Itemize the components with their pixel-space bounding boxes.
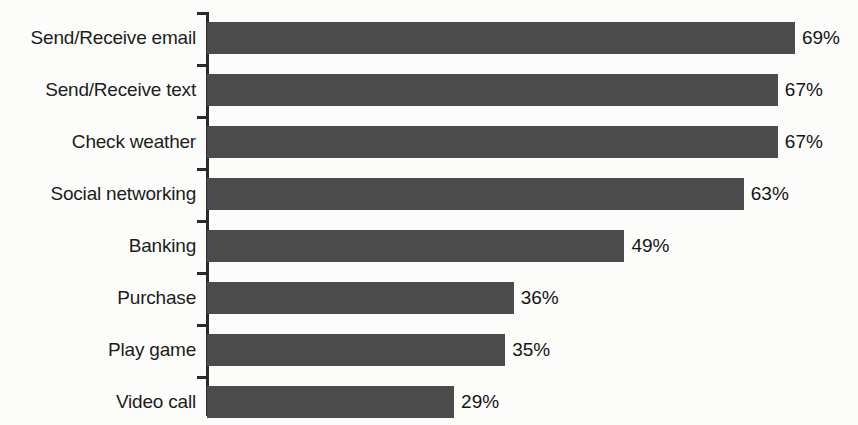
category-label: Send/Receive text: [0, 64, 196, 116]
bar-value-label: 49%: [624, 230, 669, 262]
bar-value-label: 29%: [454, 386, 499, 418]
category-label: Send/Receive email: [0, 12, 196, 64]
bar-track: 36%: [207, 282, 858, 314]
axis-tick: [197, 12, 208, 15]
bar: [207, 74, 778, 106]
bar-value-label: 67%: [778, 74, 823, 106]
bar-track: 35%: [207, 334, 858, 366]
bar-row: Social networking63%: [0, 168, 858, 220]
axis-tick: [197, 324, 208, 327]
bar-track: 29%: [207, 386, 858, 418]
bar-track: 69%: [207, 22, 858, 54]
bar-value-label: 35%: [505, 334, 550, 366]
bar-row: Purchase36%: [0, 272, 858, 324]
bar-row: Check weather67%: [0, 116, 858, 168]
bar-row: Send/Receive email69%: [0, 12, 858, 64]
bar-track: 67%: [207, 74, 858, 106]
bar-chart-plot-area: Send/Receive email69%Send/Receive text67…: [0, 0, 858, 425]
bar: [207, 282, 514, 314]
category-label: Purchase: [0, 272, 196, 324]
bar-track: 63%: [207, 178, 858, 210]
axis-tick: [197, 220, 208, 223]
axis-tick: [197, 168, 208, 171]
chart-page: Send/Receive email69%Send/Receive text67…: [0, 0, 858, 425]
bar-value-label: 36%: [514, 282, 559, 314]
category-label: Check weather: [0, 116, 196, 168]
axis-tick: [197, 116, 208, 119]
bar-row: Video call29%: [0, 376, 858, 425]
category-label: Banking: [0, 220, 196, 272]
bar-row: Send/Receive text67%: [0, 64, 858, 116]
bar-value-label: 67%: [778, 126, 823, 158]
bar-row: Banking49%: [0, 220, 858, 272]
bar: [207, 334, 505, 366]
bar: [207, 178, 744, 210]
axis-tick: [197, 272, 208, 275]
category-label: Play game: [0, 324, 196, 376]
bar-track: 49%: [207, 230, 858, 262]
bar: [207, 386, 454, 418]
bar-track: 67%: [207, 126, 858, 158]
bar: [207, 230, 624, 262]
bar: [207, 22, 795, 54]
bar: [207, 126, 778, 158]
bar-value-label: 69%: [795, 22, 840, 54]
category-label: Social networking: [0, 168, 196, 220]
axis-tick: [197, 376, 208, 379]
axis-tick: [197, 64, 208, 67]
category-label: Video call: [0, 376, 196, 425]
bar-row: Play game35%: [0, 324, 858, 376]
bar-value-label: 63%: [744, 178, 789, 210]
